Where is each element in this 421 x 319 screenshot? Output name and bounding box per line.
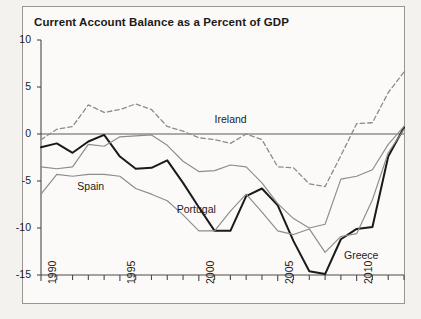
series-line-ireland xyxy=(41,72,404,187)
series-label-spain: Spain xyxy=(77,180,104,192)
y-tick-label: -5 xyxy=(5,174,31,186)
x-tick-label: 2005 xyxy=(283,261,295,284)
y-tick-label: -10 xyxy=(5,221,31,233)
series-label-ireland: Ireland xyxy=(215,113,247,125)
y-tick-label: 5 xyxy=(5,80,31,92)
plot-area: 1050-5-10-1519901995200020052010IrelandG… xyxy=(22,6,421,319)
y-tick-label: 10 xyxy=(5,33,31,45)
axis-layer xyxy=(37,40,404,281)
series-label-portugal: Portugal xyxy=(177,203,216,215)
series-label-greece: Greece xyxy=(344,249,378,261)
x-tick-label: 2000 xyxy=(204,261,216,284)
x-tick-label: 1990 xyxy=(46,261,58,284)
chart-figure: Current Account Balance as a Percent of … xyxy=(0,0,421,319)
series-layer xyxy=(41,72,404,274)
y-tick-label: 0 xyxy=(5,127,31,139)
x-tick-label: 2010 xyxy=(362,261,374,284)
y-tick-label: -15 xyxy=(5,268,31,280)
x-tick-label: 1995 xyxy=(125,261,137,284)
